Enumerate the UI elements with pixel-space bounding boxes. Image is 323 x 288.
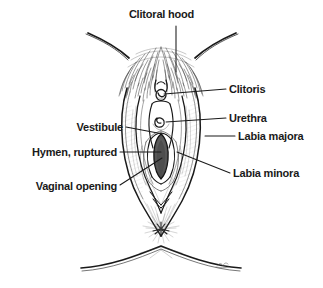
label-clitoris-text: Clitoris (229, 83, 265, 95)
anatomical-diagram-figure: Clitoral hood Clitoris Urethra Labia maj… (0, 0, 323, 288)
label-vaginal-opening: Vaginal opening (0, 180, 117, 192)
vaginal-introitus (154, 134, 168, 179)
label-vaginal-opening-text: Vaginal opening (36, 180, 117, 192)
label-labia-majora: Labia majora (238, 130, 303, 142)
label-labia-majora-text: Labia majora (238, 130, 303, 142)
label-hymen-ruptured: Hymen, ruptured (0, 146, 117, 158)
label-vestibule-text: Vestibule (77, 121, 124, 133)
label-vestibule: Vestibule (0, 121, 123, 133)
label-labia-minora-text: Labia minora (233, 167, 299, 179)
label-labia-minora: Labia minora (233, 167, 299, 179)
urethral-opening (155, 118, 164, 127)
label-hymen-ruptured-text: Hymen, ruptured (32, 146, 117, 158)
label-clitoris: Clitoris (229, 83, 265, 95)
anus-radiating-folds (143, 214, 179, 243)
vulva-anatomy-illustration (0, 0, 323, 288)
clitoris-glans (156, 90, 166, 101)
label-clitoral-hood-text: Clitoral hood (129, 8, 194, 20)
mons-pubis-hair (124, 46, 198, 96)
label-urethra: Urethra (229, 112, 267, 124)
label-urethra-text: Urethra (229, 112, 267, 124)
label-clitoral-hood: Clitoral hood (0, 8, 323, 20)
